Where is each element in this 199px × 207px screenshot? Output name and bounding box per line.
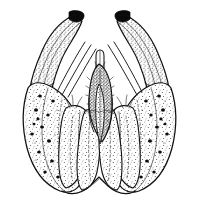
figure-root xyxy=(0,0,199,207)
genitalia-illustration xyxy=(0,0,199,207)
